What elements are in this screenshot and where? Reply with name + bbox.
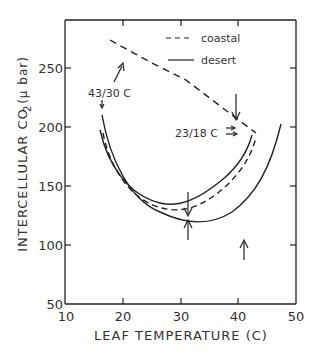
y-axis-title: INTERCELLULAR CO 2 (μ bar)	[15, 56, 33, 252]
x-tick-20: 20	[115, 309, 132, 324]
y-axis-title-sub: 2	[22, 105, 33, 112]
y-tick-150: 150	[38, 179, 63, 194]
annotation-43-30: 43/30 C	[88, 87, 131, 100]
ticks	[65, 20, 296, 304]
arrow-down-desert-cool	[184, 192, 192, 216]
arrow-annot-hot-coastal	[114, 63, 124, 82]
x-tick-50: 50	[288, 309, 305, 324]
annotation-23-18: 23/18 C	[175, 127, 218, 140]
arrow-annot-cool	[226, 126, 237, 136]
legend-desert: desert	[201, 54, 237, 67]
y-tick-100: 100	[38, 238, 63, 253]
arrow-up-coastal-cool	[184, 220, 192, 240]
arrow-annot-hot-desert	[100, 100, 104, 108]
y-axis-title-main: INTERCELLULAR CO	[15, 108, 30, 252]
x-tick-40: 40	[230, 309, 247, 324]
arrow-up-desert-hot	[240, 240, 248, 260]
legend-coastal: coastal	[201, 32, 240, 45]
y-tick-50: 50	[46, 297, 63, 312]
y-tick-250: 250	[38, 61, 63, 76]
chart: 10 20 30 40 50 50 100 150 200 250 LEAF T…	[0, 0, 313, 354]
y-axis-title-unit: (μ bar)	[16, 56, 30, 104]
legend: coastal desert	[166, 32, 240, 67]
coastal-23-18-line	[103, 133, 256, 210]
x-tick-30: 30	[173, 309, 190, 324]
y-tick-200: 200	[38, 120, 63, 135]
x-axis-title: LEAF TEMPERATURE (C)	[94, 328, 268, 343]
plot-frame	[65, 20, 296, 304]
desert-23-18-line	[100, 130, 252, 204]
